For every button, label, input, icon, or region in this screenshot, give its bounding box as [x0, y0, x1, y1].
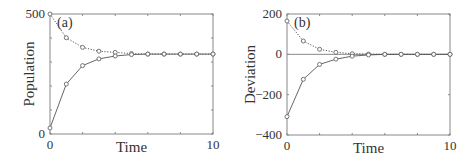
x-tick-label: 10 — [444, 138, 457, 153]
data-point-marker — [178, 52, 182, 56]
y-tick-label: 0 — [39, 126, 46, 141]
data-point-marker — [146, 52, 150, 56]
data-point-marker — [318, 62, 322, 66]
y-tick-label: 0 — [276, 46, 283, 61]
data-point-marker — [130, 53, 134, 57]
x-axis-label: Time — [353, 140, 384, 156]
figure: 0100500TimePopulation(a)010−400−2000200T… — [0, 0, 476, 162]
series-line-solid — [50, 54, 213, 128]
series-line-solid — [287, 54, 450, 116]
series-line-dotted — [50, 14, 213, 54]
data-point-marker — [211, 52, 215, 56]
plot-frame — [50, 14, 213, 134]
x-axis-label: Time — [116, 139, 147, 155]
y-axis-label: Deviation — [242, 44, 258, 104]
data-point-marker — [81, 64, 85, 68]
data-point-marker — [48, 12, 52, 16]
data-point-marker — [64, 36, 68, 40]
x-tick-label: 0 — [284, 138, 291, 153]
data-point-marker — [195, 52, 199, 56]
data-point-marker — [367, 53, 371, 57]
data-point-marker — [334, 50, 338, 54]
x-tick-label: 10 — [207, 137, 220, 152]
data-point-marker — [399, 52, 403, 56]
data-point-marker — [432, 52, 436, 56]
y-tick-label: 200 — [263, 6, 283, 21]
data-point-marker — [285, 115, 289, 119]
plot-frame — [287, 14, 450, 135]
chart-panel-b: 010−400−2000200TimeDeviation(b) — [242, 6, 457, 156]
data-point-marker — [64, 82, 68, 86]
data-point-marker — [285, 19, 289, 23]
data-point-marker — [383, 52, 387, 56]
panel-label: (b) — [294, 15, 311, 31]
data-point-marker — [448, 52, 452, 56]
chart-canvas: 0100500TimePopulation(a)010−400−2000200T… — [0, 0, 476, 162]
y-tick-label: −400 — [255, 127, 282, 142]
y-tick-label: −200 — [255, 87, 282, 102]
data-point-marker — [48, 126, 52, 130]
series-line-dotted — [287, 21, 450, 54]
data-point-marker — [318, 47, 322, 51]
data-point-marker — [113, 54, 117, 58]
panel-label: (a) — [57, 15, 73, 31]
chart-panel-a: 0100500TimePopulation(a) — [21, 6, 220, 155]
data-point-marker — [334, 57, 338, 61]
y-axis-label: Population — [21, 41, 37, 107]
data-point-marker — [81, 45, 85, 49]
y-tick-label: 500 — [26, 6, 46, 21]
data-point-marker — [415, 52, 419, 56]
data-point-marker — [350, 54, 354, 58]
x-tick-label: 0 — [47, 137, 54, 152]
data-point-marker — [97, 57, 101, 61]
data-point-marker — [301, 39, 305, 43]
data-point-marker — [162, 52, 166, 56]
data-point-marker — [97, 49, 101, 53]
data-point-marker — [301, 77, 305, 81]
